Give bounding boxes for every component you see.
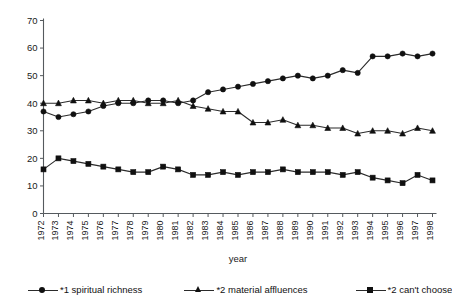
chart-legend: *1 spiritual richness *2 material afflue… <box>0 278 451 302</box>
data-point-square <box>206 172 211 177</box>
x-tick-label: 1986 <box>245 221 255 241</box>
data-point-square <box>310 170 315 175</box>
x-axis-title: year <box>229 253 247 264</box>
data-point-triangle <box>175 97 181 103</box>
legend-marker-circle-icon <box>28 285 58 295</box>
legend-marker-square-icon <box>356 285 386 295</box>
x-tick-label: 1996 <box>395 221 405 241</box>
data-point-triangle <box>415 125 421 131</box>
y-tick-label: 40 <box>27 98 38 109</box>
x-tick-label: 1979 <box>140 221 150 241</box>
x-tick-label: 1977 <box>110 221 120 241</box>
data-point-circle <box>205 90 210 95</box>
data-point-square <box>236 172 241 177</box>
data-point-square <box>41 167 46 172</box>
data-point-circle <box>295 73 300 78</box>
data-point-circle <box>86 109 91 114</box>
x-tick-label: 1982 <box>185 221 195 241</box>
series-square <box>41 156 435 186</box>
x-tick-label: 1975 <box>80 221 90 241</box>
data-series-group <box>41 51 436 186</box>
data-point-circle <box>355 70 360 75</box>
data-point-square <box>101 164 106 169</box>
data-point-circle <box>385 54 390 59</box>
data-point-square <box>146 170 151 175</box>
y-axis: 010203040506070 <box>27 15 44 219</box>
x-tick-label: 1998 <box>425 221 435 241</box>
data-point-circle <box>250 81 255 86</box>
y-tick-label: 20 <box>27 153 38 164</box>
data-point-circle <box>430 51 435 56</box>
data-point-circle <box>71 112 76 117</box>
legend-label-spiritual-richness: *1 spiritual richness <box>60 285 142 295</box>
x-tick-label: 1980 <box>155 221 165 241</box>
legend-label-material-affluences: *2 material affluences <box>216 285 307 295</box>
x-tick-label: 1988 <box>275 221 285 241</box>
data-point-circle <box>280 76 285 81</box>
x-tick-label: 1973 <box>50 221 60 241</box>
line-chart-plot: 010203040506070 197219731974197519761977… <box>0 0 451 280</box>
data-point-square <box>176 167 181 172</box>
data-point-square <box>86 161 91 166</box>
x-tick-label: 1972 <box>36 221 46 241</box>
x-tick-label: 1984 <box>215 221 225 241</box>
data-point-square <box>280 167 285 172</box>
legend-item-cant-choose: *2 can't choose <box>356 285 452 295</box>
y-tick-label: 50 <box>27 70 38 81</box>
x-tick-label: 1993 <box>350 221 360 241</box>
legend-item-material-affluences: *2 material affluences <box>184 285 307 295</box>
y-tick-label: 60 <box>27 42 38 53</box>
data-point-square <box>415 172 420 177</box>
data-point-square <box>221 170 226 175</box>
x-tick-label: 1974 <box>65 221 75 241</box>
data-point-square <box>116 167 121 172</box>
x-tick-label: 1997 <box>410 221 420 241</box>
x-tick-label: 1991 <box>320 221 330 241</box>
data-point-square <box>71 159 76 164</box>
data-point-square <box>370 175 375 180</box>
x-tick-label: 1976 <box>95 221 105 241</box>
data-point-square <box>295 170 300 175</box>
data-point-square <box>355 170 360 175</box>
data-point-square <box>131 170 136 175</box>
x-tick-label: 1981 <box>170 221 180 241</box>
y-tick-label: 30 <box>27 125 38 136</box>
data-point-triangle <box>280 117 286 123</box>
x-tick-label: 1990 <box>305 221 315 241</box>
data-point-circle <box>265 79 270 84</box>
data-point-circle <box>325 73 330 78</box>
x-tick-label: 1995 <box>380 221 390 241</box>
data-point-circle <box>235 84 240 89</box>
data-point-square <box>265 170 270 175</box>
y-tick-label: 0 <box>32 208 37 219</box>
data-point-square <box>325 170 330 175</box>
data-point-square <box>385 178 390 183</box>
data-point-square <box>250 170 255 175</box>
data-point-circle <box>41 109 46 114</box>
data-point-circle <box>340 68 345 73</box>
legend-marker-triangle-icon <box>184 285 214 295</box>
data-point-circle <box>56 114 61 119</box>
data-point-circle <box>220 87 225 92</box>
data-point-square <box>191 172 196 177</box>
x-tick-label: 1985 <box>230 221 240 241</box>
data-point-circle <box>310 76 315 81</box>
data-point-square <box>400 181 405 186</box>
x-axis: 1972197319741975197619771978197919801981… <box>36 214 437 241</box>
x-tick-label: 1989 <box>290 221 300 241</box>
data-point-square <box>56 156 61 161</box>
legend-label-cant-choose: *2 can't choose <box>388 285 452 295</box>
x-tick-label: 1994 <box>365 221 375 241</box>
data-point-square <box>340 172 345 177</box>
data-point-circle <box>400 51 405 56</box>
y-tick-label: 10 <box>27 180 38 191</box>
x-tick-label: 1987 <box>260 221 270 241</box>
y-tick-label: 70 <box>27 15 38 26</box>
data-point-square <box>161 164 166 169</box>
legend-item-spiritual-richness: *1 spiritual richness <box>28 285 142 295</box>
x-tick-label: 1983 <box>200 221 210 241</box>
data-point-square <box>430 178 435 183</box>
x-tick-label: 1992 <box>335 221 345 241</box>
series-triangle <box>41 97 436 136</box>
